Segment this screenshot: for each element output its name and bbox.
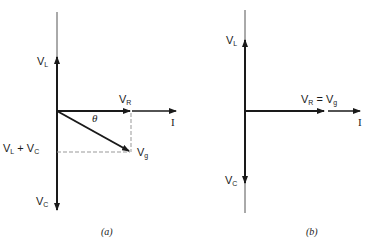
label-vg-a: Vg: [137, 147, 148, 159]
phasor-diagrams: [0, 0, 370, 239]
label-vr-eq-vg: VR = Vg: [301, 94, 337, 106]
label-vc-b: VC: [225, 175, 237, 187]
label-i-b: I: [358, 117, 362, 128]
label-vl-b: VL: [226, 35, 237, 47]
label-vc-a: VC: [36, 196, 48, 208]
caption-b: (b): [306, 226, 318, 237]
caption-a: (a): [101, 226, 113, 237]
label-vl-a: VL: [37, 56, 48, 68]
label-i-a: I: [171, 117, 175, 128]
diagram-a: [57, 12, 176, 210]
label-theta: θ: [92, 113, 97, 124]
label-vl-plus-vc: VL + VC: [3, 143, 39, 155]
diagram-b: [245, 10, 360, 213]
label-vr-a: VR: [119, 94, 131, 106]
